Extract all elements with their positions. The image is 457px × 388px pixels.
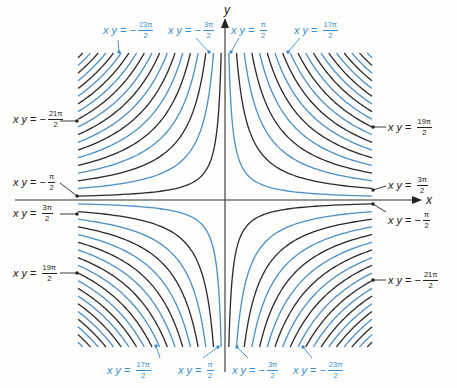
label-top-1: x y=− 3π2 [168, 21, 214, 39]
leader-line [373, 204, 386, 212]
hyperbola-curve [298, 273, 372, 347]
x-axis-label: x [426, 193, 432, 207]
label-denominator: 2 [271, 371, 275, 380]
hyperbola-curve [290, 53, 372, 135]
label-denominator: 2 [45, 214, 49, 223]
hyperbola-curve [78, 204, 221, 347]
leader-line [60, 183, 77, 196]
y-axis-arrow-icon [221, 18, 229, 28]
hyperbola-curve [78, 53, 83, 58]
hyperbola-curve [78, 227, 198, 347]
label-numerator: 19π [42, 264, 58, 274]
label-numerator: 3π [42, 204, 53, 214]
label-numerator: 21π [423, 271, 439, 281]
leader-dot-icon [75, 194, 78, 197]
label-denominator: 2 [144, 31, 148, 40]
label-right-1: x y= 3π2 [388, 176, 428, 194]
leader-line [156, 346, 160, 358]
leader-dot-icon [75, 119, 78, 122]
label-top-2: x y= π2 [231, 21, 267, 39]
leader-dot-icon [286, 50, 289, 53]
label-denominator: 2 [49, 183, 53, 192]
label-lhs: x y [388, 275, 402, 286]
label-left-0: x y=− 21π2 [13, 110, 63, 128]
hyperbola-curve [78, 53, 198, 173]
label-numerator: π [260, 21, 267, 31]
label-lhs: x y [293, 365, 307, 376]
hyperbola-curve [78, 273, 152, 347]
label-lhs: x y [231, 25, 245, 36]
label-lhs: x y [232, 365, 246, 376]
leader-line [231, 38, 239, 52]
label-lhs: x y [388, 122, 402, 133]
label-denominator: 2 [328, 31, 332, 40]
label-left-2: x y= 3π2 [13, 204, 53, 222]
label-sign: − [415, 275, 421, 286]
label-lhs: x y [388, 215, 402, 226]
leader-dot-icon [371, 125, 374, 128]
leader-dot-icon [117, 50, 120, 53]
label-numerator: 23π [328, 361, 344, 371]
label-lhs: x y [13, 208, 27, 219]
leader-dot-icon [301, 345, 304, 348]
hyperbola-curve [252, 53, 372, 173]
label-right-2: x y=− π2 [388, 211, 430, 229]
label-sign: − [130, 25, 136, 36]
y-axis-label: y [224, 3, 230, 17]
label-top-0: x y=− 23π2 [103, 21, 153, 39]
leader-dot-icon [75, 212, 78, 215]
hyperbola-curve [78, 342, 83, 347]
hyperbola-diagram: x y x y=− 23π2 x y=− 3π2 x y= π2 x y= 17… [0, 0, 457, 388]
hyperbola-curve [78, 53, 114, 89]
leader-dot-icon [371, 202, 374, 205]
label-right-3: x y=− 21π2 [388, 271, 438, 289]
label-numerator: 17π [323, 21, 339, 31]
leader-line [203, 347, 218, 358]
hyperbola-curve [298, 53, 372, 127]
label-denominator: 2 [47, 274, 51, 283]
label-denominator: 2 [54, 120, 58, 129]
hyperbola-curve [252, 227, 372, 347]
x-axis-arrow-icon [412, 196, 422, 204]
label-lhs: x y [178, 365, 192, 376]
label-bottom-3: x y=− 23π2 [293, 361, 343, 379]
leader-line [288, 38, 300, 52]
hyperbola-curve [229, 53, 372, 196]
leader-line [237, 347, 248, 358]
label-right-0: x y= 19π2 [388, 118, 432, 136]
label-numerator: 3π [417, 176, 428, 186]
leader-dot-icon [235, 345, 238, 348]
hyperbola-curve [78, 53, 160, 135]
label-numerator: π [48, 173, 55, 183]
hyperbola-curve [78, 53, 221, 196]
label-denominator: 2 [424, 221, 428, 230]
label-numerator: π [207, 361, 214, 371]
hyperbola-curve [267, 53, 372, 158]
label-sign: − [320, 365, 326, 376]
hyperbola-curve [336, 53, 372, 89]
leader-line [303, 347, 312, 358]
label-numerator: 3π [267, 361, 278, 371]
hyperbola-curve [78, 265, 160, 347]
label-bottom-0: x y= 17π2 [107, 361, 151, 379]
hyperbola-curve [229, 204, 372, 347]
label-left-1: x y=− π2 [13, 173, 55, 191]
hyperbola-curve [290, 265, 372, 347]
label-lhs: x y [13, 268, 27, 279]
label-left-3: x y= 19π2 [13, 264, 57, 282]
label-denominator: 2 [207, 31, 211, 40]
label-lhs: x y [13, 177, 27, 188]
leader-dot-icon [371, 188, 374, 191]
leader-line [373, 186, 386, 190]
leader-dot-icon [154, 344, 157, 347]
label-top-3: x y= 17π2 [294, 21, 338, 39]
label-denominator: 2 [422, 128, 426, 137]
label-lhs: x y [168, 25, 182, 36]
label-denominator: 2 [208, 371, 212, 380]
leader-dot-icon [229, 50, 232, 53]
label-denominator: 2 [420, 186, 424, 195]
leader-line [196, 38, 209, 52]
hyperbola-curve [367, 342, 372, 347]
label-sign: − [195, 25, 201, 36]
label-numerator: 17π [136, 361, 152, 371]
